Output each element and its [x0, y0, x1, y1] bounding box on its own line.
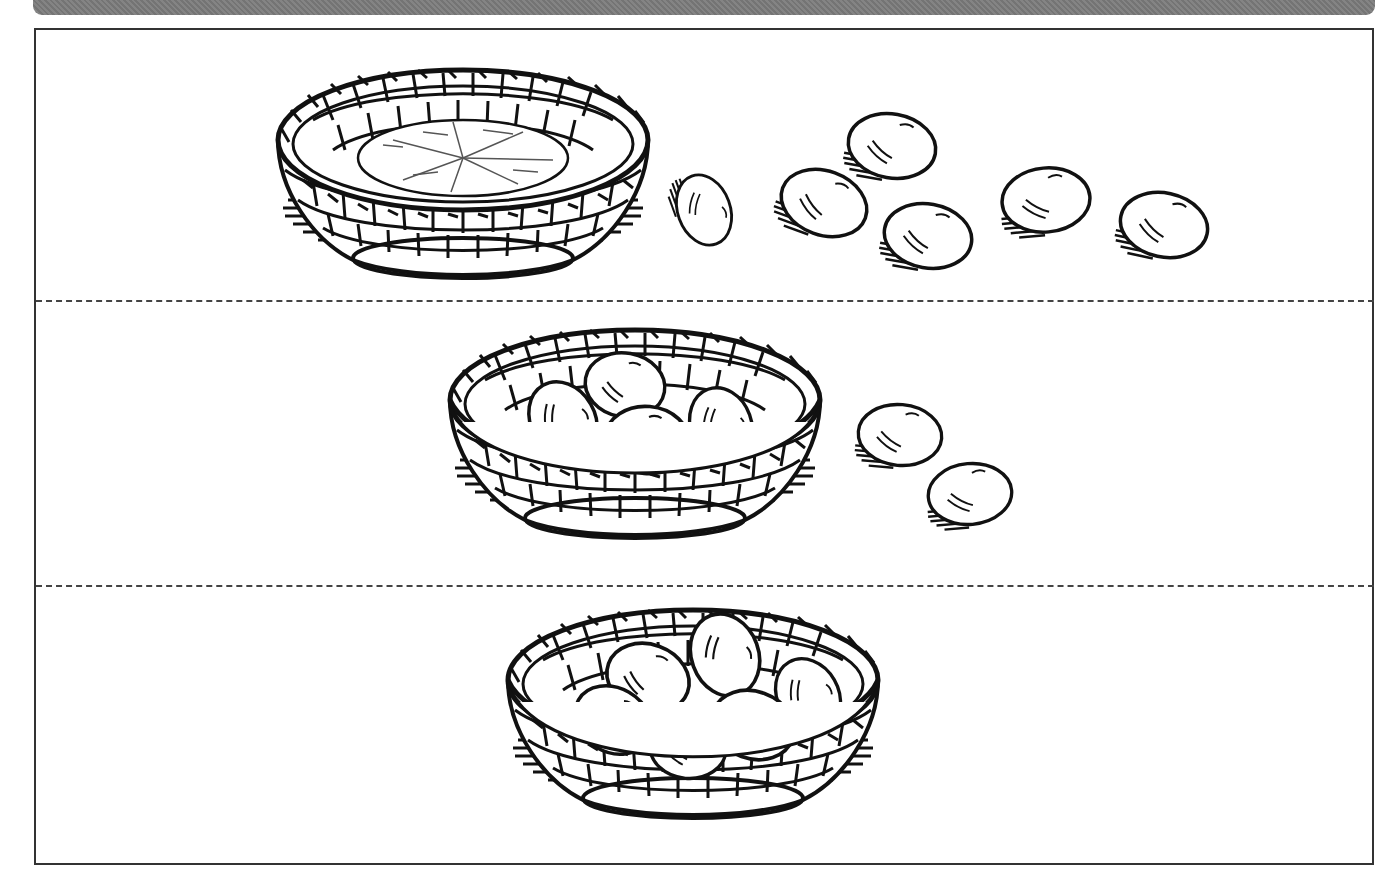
row-1-empty-basket — [278, 70, 648, 278]
worksheet-illustration — [0, 0, 1397, 873]
row-2-basket-with-4-eggs — [450, 330, 820, 538]
row-2-loose-eggs — [854, 401, 1015, 531]
row-3-basket-with-6-eggs — [508, 604, 878, 818]
row-1-loose-eggs — [664, 106, 1214, 278]
